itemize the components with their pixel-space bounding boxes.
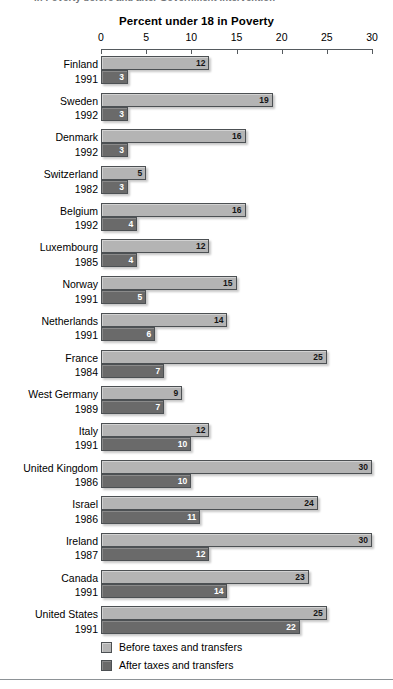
bar-value-label: 3 xyxy=(119,109,124,118)
bar-value-label: 4 xyxy=(128,256,133,265)
row-bars: 124 xyxy=(101,239,209,267)
bar-value-label: 14 xyxy=(214,316,223,325)
row-label: Netherlands1991 xyxy=(0,314,98,343)
row-year-label: 1987 xyxy=(0,548,98,563)
row-bars: 257 xyxy=(101,350,327,378)
row-country-label: France xyxy=(0,351,98,366)
bar-before-taxes: 30 xyxy=(101,533,372,547)
row-bars: 3012 xyxy=(101,533,372,561)
bar-value-label: 10 xyxy=(178,440,187,449)
bar-after-taxes: 7 xyxy=(101,400,164,414)
x-tick-label: 30 xyxy=(366,31,378,43)
bar-before-taxes: 16 xyxy=(101,129,246,143)
chart-row: Finland1991123 xyxy=(0,56,393,93)
bar-value-label: 14 xyxy=(214,586,223,595)
bar-after-taxes: 3 xyxy=(101,107,128,121)
bar-value-label: 30 xyxy=(359,536,368,545)
row-country-label: United Kingdom xyxy=(0,461,98,476)
bar-value-label: 6 xyxy=(146,330,151,339)
chart-row: Canada19912314 xyxy=(0,570,393,607)
row-label: Italy1991 xyxy=(0,424,98,453)
row-bars: 163 xyxy=(101,129,246,157)
bar-before-taxes: 25 xyxy=(101,350,327,364)
x-tick-label: 25 xyxy=(321,31,333,43)
chart-row: Ireland19873012 xyxy=(0,533,393,570)
row-label: Ireland1987 xyxy=(0,534,98,563)
x-tick-label: 10 xyxy=(185,31,197,43)
x-tick-mark xyxy=(101,49,102,54)
row-bars: 53 xyxy=(101,166,146,194)
chart-row: West Germany198997 xyxy=(0,386,393,423)
row-year-label: 1986 xyxy=(0,475,98,490)
row-country-label: Israel xyxy=(0,497,98,512)
row-country-label: West Germany xyxy=(0,387,98,402)
bar-value-label: 22 xyxy=(286,623,295,632)
row-label: Switzerland1982 xyxy=(0,167,98,196)
bar-value-label: 3 xyxy=(119,73,124,82)
row-label: Norway1991 xyxy=(0,277,98,306)
bar-after-taxes: 3 xyxy=(101,143,128,157)
bar-value-label: 12 xyxy=(196,242,205,251)
row-bars: 2522 xyxy=(101,606,327,634)
chart-row: Sweden1992193 xyxy=(0,93,393,130)
row-bars: 123 xyxy=(101,56,209,84)
bar-before-taxes: 12 xyxy=(101,423,209,437)
row-bars: 155 xyxy=(101,276,237,304)
chart-row: United Kingdom19863010 xyxy=(0,460,393,497)
legend-swatch-before xyxy=(101,642,112,653)
bar-after-taxes: 3 xyxy=(101,70,128,84)
bar-value-label: 4 xyxy=(128,220,133,229)
x-tick-mark xyxy=(237,49,238,54)
x-tick-mark xyxy=(282,49,283,54)
row-country-label: Netherlands xyxy=(0,314,98,329)
chart-row: Belgium1992164 xyxy=(0,203,393,240)
chart-row: Netherlands1991146 xyxy=(0,313,393,350)
x-tick-mark xyxy=(372,49,373,54)
row-country-label: Italy xyxy=(0,424,98,439)
bar-value-label: 3 xyxy=(119,146,124,155)
row-label: Sweden1992 xyxy=(0,94,98,123)
row-country-label: United States xyxy=(0,607,98,622)
row-label: Luxembourg1985 xyxy=(0,240,98,269)
bar-value-label: 12 xyxy=(196,59,205,68)
chart-row: France1984257 xyxy=(0,350,393,387)
row-bars: 2314 xyxy=(101,570,309,598)
legend-item: Before taxes and transfers xyxy=(101,639,242,655)
legend-label: Before taxes and transfers xyxy=(119,641,242,653)
row-label: United States1991 xyxy=(0,607,98,636)
chart-row: Switzerland198253 xyxy=(0,166,393,203)
row-label: Canada1991 xyxy=(0,571,98,600)
row-country-label: Denmark xyxy=(0,130,98,145)
row-country-label: Belgium xyxy=(0,204,98,219)
row-year-label: 1991 xyxy=(0,328,98,343)
row-country-label: Norway xyxy=(0,277,98,292)
bar-value-label: 12 xyxy=(196,550,205,559)
row-year-label: 1982 xyxy=(0,182,98,197)
bar-value-label: 15 xyxy=(223,279,232,288)
row-year-label: 1991 xyxy=(0,585,98,600)
chart-rows: Finland1991123Sweden1992193Denmark199216… xyxy=(0,56,393,643)
bar-value-label: 5 xyxy=(137,293,142,302)
chart-row: United States19912522 xyxy=(0,606,393,643)
chart-legend: Before taxes and transfersAfter taxes an… xyxy=(101,639,242,675)
row-label: West Germany1989 xyxy=(0,387,98,416)
bottom-divider xyxy=(0,679,393,680)
row-year-label: 1984 xyxy=(0,365,98,380)
bar-after-taxes: 22 xyxy=(101,620,300,634)
row-bars: 2411 xyxy=(101,496,318,524)
row-label: France1984 xyxy=(0,351,98,380)
bar-value-label: 5 xyxy=(137,169,142,178)
x-tick-mark xyxy=(191,49,192,54)
row-country-label: Luxembourg xyxy=(0,240,98,255)
row-year-label: 1985 xyxy=(0,255,98,270)
row-label: Belgium1992 xyxy=(0,204,98,233)
bar-value-label: 25 xyxy=(313,352,322,361)
bar-value-label: 10 xyxy=(178,476,187,485)
row-year-label: 1991 xyxy=(0,622,98,637)
row-year-label: 1991 xyxy=(0,72,98,87)
bar-value-label: 16 xyxy=(232,206,241,215)
bar-before-taxes: 23 xyxy=(101,570,309,584)
row-bars: 1210 xyxy=(101,423,209,451)
x-tick-label: 15 xyxy=(231,31,243,43)
row-country-label: Ireland xyxy=(0,534,98,549)
